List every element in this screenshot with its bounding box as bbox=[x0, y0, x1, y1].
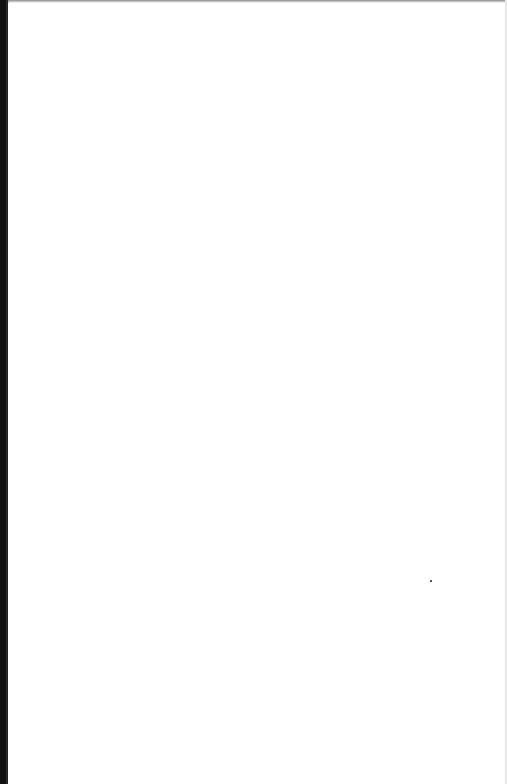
bleed-through-text bbox=[128, 9, 428, 23]
scanner-edge-left bbox=[0, 0, 8, 784]
blank-page bbox=[8, 3, 505, 784]
dust-speck bbox=[430, 580, 432, 582]
